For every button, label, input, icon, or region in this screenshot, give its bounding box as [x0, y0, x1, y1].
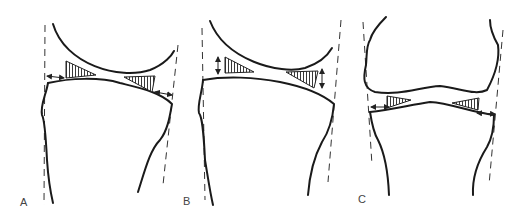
tibial-shaft-left — [199, 80, 213, 205]
offset-arrow-left — [47, 76, 64, 78]
tibia-right-side — [473, 115, 494, 195]
panel-label-c: C — [358, 193, 366, 205]
tibial-plateau-right — [48, 79, 172, 192]
reference-line-left — [202, 28, 205, 200]
tibia-left-side — [370, 112, 389, 195]
panel-b: B — [183, 20, 341, 207]
tibial-plateau-right — [203, 78, 334, 195]
hatched-gap-left — [66, 61, 96, 78]
panel-a: A — [20, 24, 178, 208]
reference-line-left — [44, 25, 45, 205]
hatched-gap-right — [124, 76, 155, 92]
tibial-shaft-left — [42, 83, 53, 203]
reference-line-right — [489, 30, 503, 185]
panel-label-b: B — [183, 195, 190, 207]
panel-c: C — [358, 17, 503, 205]
offset-arrow-right — [477, 113, 495, 114]
knee-joint-diagram: A B C — [0, 0, 517, 222]
femur — [364, 17, 498, 93]
panel-label-a: A — [20, 196, 28, 208]
